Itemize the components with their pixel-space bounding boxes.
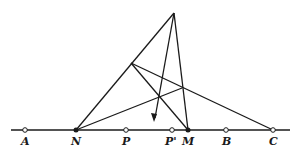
label-M: M (181, 135, 195, 148)
construction-lines (11, 13, 290, 130)
point-P (124, 128, 129, 133)
label-P: P (121, 135, 131, 148)
point-M (186, 128, 191, 133)
line-upper-to-C (131, 63, 273, 130)
point-C (271, 128, 276, 133)
arrowhead-icon (151, 113, 157, 122)
line-N-to-mid (76, 88, 182, 130)
label-A: A (20, 135, 30, 148)
line-apex-to-M (174, 13, 188, 130)
point-N (74, 128, 79, 133)
point-labels: A N P P' M B C (20, 135, 278, 148)
geometry-diagram: A N P P' M B C (0, 0, 296, 159)
label-P-prime: P' (164, 135, 177, 148)
label-B: B (221, 135, 231, 148)
point-A (23, 128, 28, 133)
label-C: C (269, 135, 278, 148)
point-P-prime (170, 128, 175, 133)
label-N: N (70, 135, 82, 148)
point-B (224, 128, 229, 133)
line-apex-to-N (76, 13, 174, 130)
